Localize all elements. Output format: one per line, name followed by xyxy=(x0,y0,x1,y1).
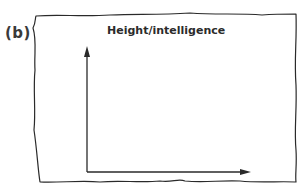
chart-title: Height/intelligence xyxy=(107,24,225,37)
y-axis-arrow-icon xyxy=(84,46,90,57)
sketch-frame xyxy=(33,13,296,182)
panel-label: (b) xyxy=(5,24,31,42)
x-axis-arrow-icon xyxy=(240,169,251,175)
